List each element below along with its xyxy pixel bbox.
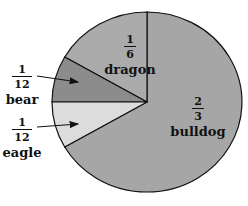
bulldog-denominator: 3 [192, 109, 204, 122]
label-bear: 1 12 bear [2, 64, 42, 106]
label-eagle: 1 12 eagle [2, 117, 42, 159]
dragon-name: dragon [92, 63, 168, 76]
dragon-denominator: 6 [124, 47, 136, 60]
eagle-denominator: 12 [12, 130, 31, 143]
bear-denominator: 12 [12, 77, 31, 90]
eagle-name: eagle [2, 146, 42, 159]
bear-numerator: 1 [12, 64, 31, 77]
bulldog-numerator: 2 [192, 96, 204, 109]
label-dragon: 1 6 dragon [92, 34, 168, 76]
eagle-numerator: 1 [12, 117, 31, 130]
label-bulldog: 2 3 bulldog [158, 96, 238, 138]
bulldog-name: bulldog [158, 125, 238, 138]
bear-name: bear [2, 93, 42, 106]
dragon-numerator: 1 [124, 34, 136, 47]
